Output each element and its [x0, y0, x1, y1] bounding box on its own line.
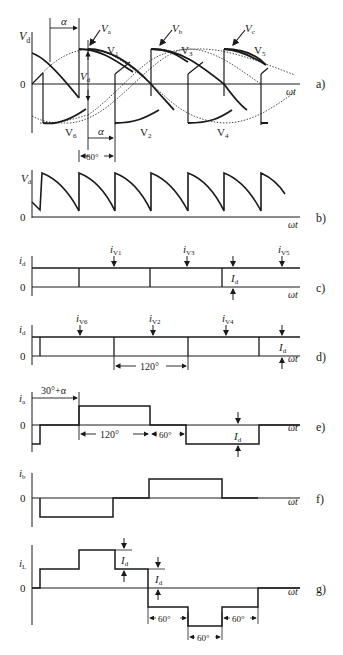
panel-b-ylabel: Vd [21, 172, 32, 186]
iv6-label: iV6 [76, 312, 88, 326]
v1-label: V1 [107, 44, 119, 58]
panel-a-labels: Vd 0 ωt a) α α Vd Va Vb Vc V1 V3 V5 V6 V… [19, 15, 325, 162]
v5-label: V5 [254, 44, 266, 58]
panel-g-zero: 0 [20, 582, 26, 594]
panel-a [32, 18, 300, 162]
panel-b [32, 170, 300, 218]
rising-segments [32, 62, 268, 84]
vb-label: Vb [172, 22, 183, 36]
panel-d-span: 120° [140, 361, 159, 372]
panel-f-ylabel: ib [19, 467, 26, 481]
alpha-label: α [61, 15, 67, 27]
panel-f-tag: f) [316, 492, 324, 506]
ylabel-vd: Vd [19, 29, 30, 45]
panel-d-tag: d) [316, 350, 326, 364]
panel-e-xlabel: ωt [288, 422, 298, 433]
iv4-label: iV4 [222, 312, 234, 326]
panel-e-zero: 0 [20, 419, 26, 431]
panel-c-id: Id [230, 272, 239, 286]
iv5-label: iV5 [278, 243, 290, 257]
panel-c-xlabel: ωt [288, 289, 298, 300]
panel-g-span-2: 60° [197, 633, 210, 643]
panel-c-zero: 0 [20, 281, 26, 293]
panel-d-zero: 0 [20, 350, 26, 362]
v6-label: V6 [65, 126, 77, 140]
vd-label: Vd [80, 70, 91, 84]
panel-e-tag: e) [316, 420, 325, 434]
xlabel: ωt [286, 86, 296, 97]
panel-g-tag: g) [316, 582, 326, 596]
panel-d-xlabel: ωt [288, 353, 298, 364]
panel-e-ylabel: ia [19, 392, 26, 406]
offset-label: 30°+α [41, 385, 67, 396]
panel-c-tag: c) [316, 281, 325, 295]
panel-g-ylabel: iL [19, 557, 26, 571]
upper-envelope [32, 49, 266, 98]
panel-f-xlabel: ωt [288, 496, 298, 507]
iv3-label: iV3 [183, 243, 195, 257]
panel-d-ylabel: id [19, 323, 26, 337]
panel-g [32, 538, 300, 640]
span-60-label: 60° [159, 430, 172, 440]
lower-envelope [43, 109, 268, 123]
panel-f-zero: 0 [20, 492, 26, 504]
v3-label: V3 [181, 44, 193, 58]
panel-c [32, 256, 300, 300]
panel-g-id-1: Id [120, 554, 129, 568]
panel-c-ylabel: id [19, 254, 26, 268]
panel-b-xlabel: ωt [288, 219, 298, 230]
rectifier-waveform-diagram: Vd 0 ωt a) α α Vd Va Vb Vc V1 V3 V5 V6 V… [0, 0, 343, 655]
sixty-deg-label: 60° [86, 152, 99, 162]
alpha-label-bottom: α [98, 125, 104, 137]
iv2-label: iV2 [149, 312, 161, 326]
panel-g-xlabel: ωt [288, 586, 298, 597]
va-label: Va [101, 22, 112, 36]
panel-b-zero: 0 [20, 211, 26, 223]
panel-e [32, 392, 300, 457]
panel-d [32, 325, 300, 370]
span-120-label: 120° [100, 429, 119, 440]
panel-tag: a) [316, 77, 325, 91]
panel-g-span-3: 60° [232, 614, 245, 624]
v4-label: V4 [217, 126, 229, 140]
vc-label: Vc [245, 22, 255, 36]
vb-dotted [32, 49, 261, 123]
panel-g-id-2: Id [154, 573, 163, 587]
panel-e-id: Id [233, 430, 242, 444]
panel-g-span-1: 60° [158, 614, 171, 624]
v2-label: V2 [140, 126, 152, 140]
panel-b-tag: b) [316, 211, 326, 225]
panel-f [32, 473, 300, 527]
zero-label: 0 [20, 78, 26, 90]
iv1-label: iV1 [110, 243, 122, 257]
panel-d-id: Id [278, 341, 287, 355]
